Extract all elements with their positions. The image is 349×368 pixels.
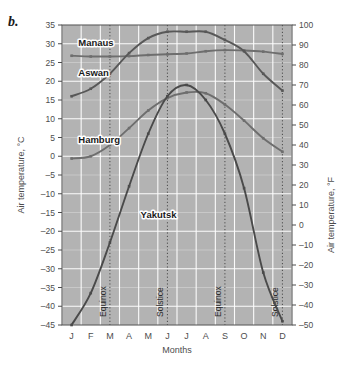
data-point bbox=[70, 54, 73, 57]
tick-label-left: 10 bbox=[46, 114, 56, 124]
tick-label-left: 25 bbox=[46, 58, 56, 68]
tick-label-left: –45 bbox=[41, 320, 55, 330]
data-point bbox=[147, 37, 150, 40]
tick-label-left: 5 bbox=[50, 133, 55, 143]
tick-label-left: 0 bbox=[50, 151, 55, 161]
data-point bbox=[243, 187, 246, 190]
data-point bbox=[243, 50, 246, 53]
tick-label-right: 100 bbox=[299, 20, 313, 30]
data-point bbox=[281, 53, 284, 56]
data-point bbox=[89, 55, 92, 58]
data-point bbox=[166, 53, 169, 56]
data-point bbox=[262, 271, 265, 274]
figure-panel: b. EquinoxSolsticeEquinoxSolsticeManausM… bbox=[0, 0, 349, 368]
data-point bbox=[166, 30, 169, 33]
tick-label-month: J bbox=[69, 331, 74, 341]
data-point bbox=[224, 39, 227, 42]
tick-label-month: N bbox=[260, 331, 267, 341]
data-point bbox=[70, 157, 73, 160]
y-axis-title-right: Air temperature, °F bbox=[326, 176, 336, 253]
data-point bbox=[224, 49, 227, 52]
tick-label-left: –5 bbox=[46, 170, 56, 180]
tick-label-left: –15 bbox=[41, 208, 55, 218]
data-point bbox=[128, 185, 131, 188]
data-point bbox=[262, 72, 265, 75]
tick-label-left: –10 bbox=[41, 189, 55, 199]
data-point bbox=[262, 50, 265, 53]
data-point bbox=[204, 50, 207, 53]
data-point bbox=[204, 92, 207, 95]
data-point bbox=[243, 119, 246, 122]
x-axis-title: Months bbox=[162, 345, 192, 355]
tick-label-right: 70 bbox=[299, 80, 309, 90]
data-point bbox=[262, 137, 265, 140]
tick-label-right: 60 bbox=[299, 100, 309, 110]
tick-label-right: –10 bbox=[299, 240, 313, 250]
panel-letter: b. bbox=[8, 14, 19, 30]
tick-label-right: –40 bbox=[299, 300, 313, 310]
tick-label-month: M bbox=[145, 331, 153, 341]
data-point bbox=[281, 89, 284, 92]
data-point bbox=[109, 241, 112, 244]
data-point bbox=[185, 30, 188, 33]
data-point bbox=[147, 54, 150, 57]
tick-label-left: –30 bbox=[41, 264, 55, 274]
tick-label-right: 50 bbox=[299, 120, 309, 130]
tick-label-month: F bbox=[88, 331, 94, 341]
data-point bbox=[204, 99, 207, 102]
data-point bbox=[185, 52, 188, 55]
tick-label-month: A bbox=[126, 331, 132, 341]
tick-label-month: A bbox=[203, 331, 209, 341]
data-point bbox=[70, 95, 73, 98]
tick-label-left: –40 bbox=[41, 301, 55, 311]
data-point bbox=[147, 132, 150, 135]
data-point bbox=[224, 132, 227, 135]
data-point bbox=[185, 84, 188, 87]
data-point bbox=[109, 72, 112, 75]
data-point bbox=[109, 55, 112, 58]
tick-label-right: 30 bbox=[299, 160, 309, 170]
series-label-aswan: Aswan bbox=[78, 67, 109, 78]
tick-label-month: M bbox=[106, 331, 114, 341]
tick-label-right: 20 bbox=[299, 180, 309, 190]
tick-label-right: 40 bbox=[299, 140, 309, 150]
tick-label-month: J bbox=[165, 331, 170, 341]
tick-label-month: J bbox=[184, 331, 189, 341]
data-point bbox=[204, 30, 207, 33]
data-point bbox=[281, 320, 284, 323]
tick-label-month: S bbox=[222, 331, 228, 341]
tick-label-right: 10 bbox=[299, 200, 309, 210]
climate-line-chart: EquinoxSolsticeEquinoxSolsticeManausMana… bbox=[0, 0, 349, 368]
tick-label-month: O bbox=[241, 331, 248, 341]
data-point bbox=[128, 52, 131, 55]
data-point bbox=[185, 91, 188, 94]
tick-label-right: –50 bbox=[299, 320, 313, 330]
tick-label-right: –20 bbox=[299, 260, 313, 270]
y-axis-title-left: Air temperature, °C bbox=[16, 136, 26, 214]
tick-label-left: 20 bbox=[46, 76, 56, 86]
tick-label-left: –25 bbox=[41, 245, 55, 255]
marker-label: Solstice bbox=[155, 287, 165, 317]
tick-label-right: 0 bbox=[299, 220, 304, 230]
tick-label-right: –30 bbox=[299, 280, 313, 290]
tick-label-right: 90 bbox=[299, 40, 309, 50]
data-point bbox=[147, 109, 150, 112]
series-label-yakutsk: Yakutsk bbox=[141, 209, 178, 220]
marker-label: Equinox bbox=[98, 286, 108, 317]
series-label-hamburg: Hamburg bbox=[78, 134, 120, 145]
data-point bbox=[166, 95, 169, 98]
marker-label: Equinox bbox=[213, 286, 223, 317]
tick-label-left: 30 bbox=[46, 39, 56, 49]
data-point bbox=[89, 87, 92, 90]
series-label-manaus: Manaus bbox=[78, 37, 113, 48]
data-point bbox=[89, 155, 92, 158]
data-point bbox=[128, 127, 131, 130]
data-point bbox=[281, 150, 284, 153]
tick-label-left: –20 bbox=[41, 226, 55, 236]
tick-label-right: 80 bbox=[299, 60, 309, 70]
tick-label-left: 35 bbox=[46, 20, 56, 30]
data-point bbox=[224, 103, 227, 106]
tick-label-left: 15 bbox=[46, 95, 56, 105]
data-point bbox=[89, 292, 92, 295]
tick-label-month: D bbox=[279, 331, 286, 341]
